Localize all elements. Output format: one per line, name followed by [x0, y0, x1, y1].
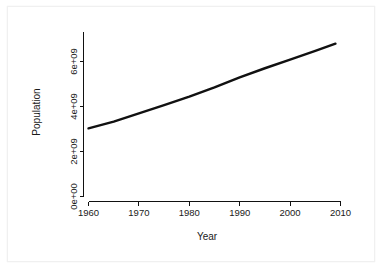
y-tick-label-4e09: 4e+09: [68, 93, 79, 120]
chart-canvas: 0e+00 2e+09 4e+09 6e+09 1960 1970 1980: [0, 0, 380, 268]
x-axis-ticks: [89, 202, 341, 206]
population-series-line: [89, 44, 336, 129]
y-tick-label-0: 0e+00: [68, 183, 79, 210]
y-axis-ticks: [80, 62, 84, 197]
x-tick-label-1990: 1990: [229, 207, 250, 218]
y-tick-labels: 0e+00 2e+09 4e+09 6e+09: [68, 48, 79, 210]
x-tick-label-1970: 1970: [128, 207, 149, 218]
y-tick-label-6e09: 6e+09: [68, 48, 79, 75]
y-axis-title: Population: [31, 88, 42, 135]
x-tick-label-2010: 2010: [330, 207, 351, 218]
population-line-chart: 0e+00 2e+09 4e+09 6e+09 1960 1970 1980: [0, 0, 380, 268]
x-tick-label-1980: 1980: [179, 207, 200, 218]
x-axis-title: Year: [197, 231, 218, 242]
x-tick-label-1960: 1960: [78, 207, 99, 218]
y-tick-label-2e09: 2e+09: [68, 138, 79, 165]
x-tick-label-2000: 2000: [280, 207, 301, 218]
x-tick-labels: 1960 1970 1980 1990 2000 2010: [78, 207, 351, 218]
chart-screenshot: 0e+00 2e+09 4e+09 6e+09 1960 1970 1980: [0, 0, 380, 268]
